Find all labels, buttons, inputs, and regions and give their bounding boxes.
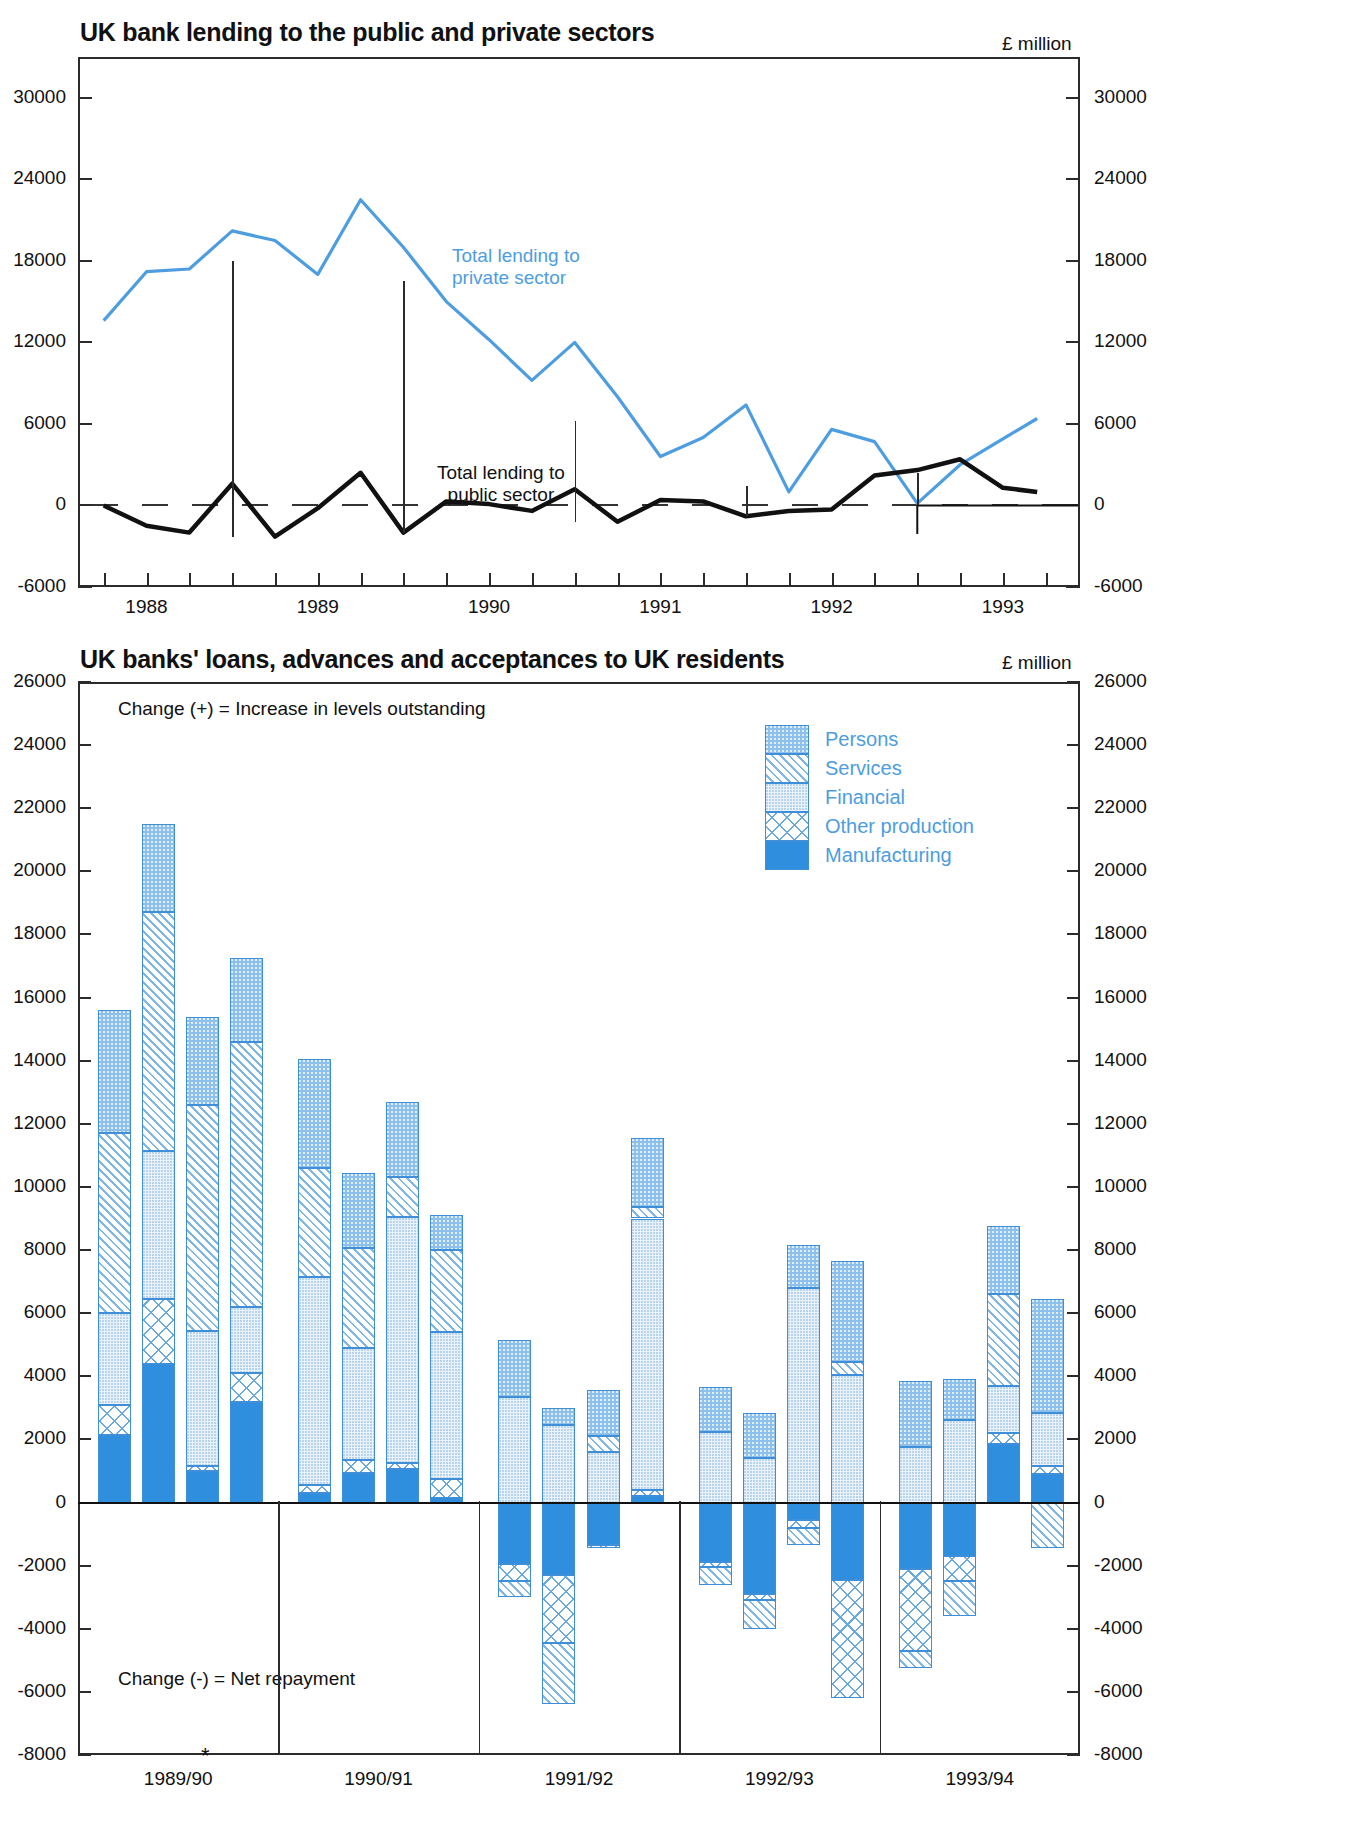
bottom-y-tick-label-left: 4000 — [0, 1364, 66, 1386]
bar-segment-manufacturing — [699, 1503, 732, 1563]
bottom-y-tick-label-right: 0 — [1094, 1491, 1105, 1513]
bar-segment-persons — [298, 1059, 331, 1168]
bottom-axis-tick — [78, 1628, 91, 1630]
bottom-x-tick-label-1990-91: 1990/91 — [278, 1768, 478, 1790]
bottom-axis-tick — [78, 870, 91, 872]
bottom-y-tick-label-left: 20000 — [0, 859, 66, 881]
bar-segment-services — [230, 1042, 263, 1307]
top-x-axis-tick — [361, 573, 363, 587]
bar-segment-financial — [831, 1375, 864, 1503]
top-x-axis-tick — [232, 573, 234, 587]
private-sector-label-line1: Total lending to — [452, 245, 580, 267]
bottom-y-tick-label-left: -2000 — [0, 1554, 66, 1576]
bottom-axis-tick — [78, 1186, 91, 1188]
bar-segment-services — [342, 1248, 375, 1347]
bar-segment-persons — [1031, 1299, 1064, 1413]
bar-segment-manufacturing — [142, 1364, 175, 1503]
bottom-axis-tick — [78, 1754, 91, 1756]
bar-segment-manufacturing — [899, 1503, 932, 1569]
bar-segment-other — [386, 1463, 419, 1469]
bar-segment-services — [743, 1600, 776, 1628]
bottom-y-tick-label-left: 22000 — [0, 796, 66, 818]
bar-segment-services — [631, 1207, 664, 1218]
bar-segment-services — [498, 1581, 531, 1597]
bottom-y-tick-label-left: -6000 — [0, 1680, 66, 1702]
bottom-axis-tick — [1067, 1312, 1080, 1314]
bottom-y-tick-label-right: 6000 — [1094, 1301, 1136, 1323]
top-x-axis-tick — [746, 573, 748, 587]
top-y-tick-label-right: 6000 — [1094, 412, 1136, 434]
bar-segment-manufacturing — [542, 1503, 575, 1576]
bottom-x-tick-label-1991-92: 1991/92 — [479, 1768, 679, 1790]
legend-swatch-other — [765, 812, 809, 841]
top-y-tick-label-right: 30000 — [1094, 86, 1147, 108]
bar-segment-financial — [1031, 1413, 1064, 1467]
bottom-y-tick-label-right: 18000 — [1094, 922, 1147, 944]
bar-segment-services — [1031, 1503, 1064, 1549]
top-period-divider — [746, 486, 748, 516]
legend-swatch-financial — [765, 783, 809, 812]
legend-swatch-persons — [765, 725, 809, 754]
legend-label-other: Other production — [825, 815, 974, 838]
footnote-asterisk: * — [201, 1743, 210, 1769]
bottom-y-tick-label-right: -8000 — [1094, 1743, 1143, 1765]
bar-segment-services — [943, 1581, 976, 1616]
legend-item-financial: Financial — [765, 783, 974, 812]
legend-label-persons: Persons — [825, 728, 898, 751]
bottom-axis-tick — [1067, 744, 1080, 746]
bottom-axis-tick — [1067, 1375, 1080, 1377]
bar-segment-financial — [699, 1432, 732, 1503]
bottom-y-tick-label-left: 2000 — [0, 1427, 66, 1449]
bottom-axis-tick — [1067, 1565, 1080, 1567]
bar-segment-services — [587, 1436, 620, 1452]
top-x-axis-tick — [489, 573, 491, 587]
bar-segment-other — [831, 1580, 864, 1698]
top-x-tick-label-1993: 1993 — [953, 596, 1053, 618]
bar-segment-manufacturing — [498, 1503, 531, 1565]
bottom-axis-tick — [78, 1691, 91, 1693]
top-x-axis-tick — [917, 573, 919, 587]
bar-segment-other — [498, 1564, 531, 1581]
bar-segment-other — [342, 1460, 375, 1473]
bar-segment-financial — [587, 1452, 620, 1502]
bottom-y-tick-label-left: -8000 — [0, 1743, 66, 1765]
bottom-x-tick-label-1993-94: 1993/94 — [880, 1768, 1080, 1790]
bottom-y-tick-label-left: 26000 — [0, 670, 66, 692]
bar-segment-persons — [899, 1381, 932, 1447]
top-period-divider — [403, 281, 405, 532]
bottom-y-tick-label-right: 12000 — [1094, 1112, 1147, 1134]
top-y-tick-label-left: -6000 — [0, 575, 66, 597]
bar-segment-services — [987, 1294, 1020, 1386]
bar-segment-financial — [743, 1458, 776, 1502]
top-x-tick-label-1988: 1988 — [97, 596, 197, 618]
bottom-y-tick-label-right: 16000 — [1094, 986, 1147, 1008]
bottom-axis-tick — [1067, 1123, 1080, 1125]
bottom-x-tick-label-1992-93: 1992/93 — [679, 1768, 879, 1790]
bar-segment-other — [787, 1520, 820, 1528]
bar-segment-financial — [142, 1151, 175, 1299]
bar-segment-persons — [498, 1340, 531, 1397]
bar-segment-persons — [542, 1408, 575, 1425]
legend-swatch-manufacturing — [765, 841, 809, 870]
bar-segment-manufacturing — [743, 1503, 776, 1595]
bar-segment-other — [186, 1466, 219, 1471]
bar-segment-financial — [987, 1386, 1020, 1433]
top-x-axis-tick — [660, 573, 662, 587]
top-y-tick-label-right: 12000 — [1094, 330, 1147, 352]
bar-segment-services — [298, 1168, 331, 1277]
bottom-axis-tick — [78, 1438, 91, 1440]
bar-segment-financial — [186, 1331, 219, 1467]
bar-segment-services — [787, 1528, 820, 1545]
bar-segment-financial — [631, 1219, 664, 1490]
bar-segment-financial — [386, 1217, 419, 1463]
bar-segment-financial — [787, 1288, 820, 1503]
bottom-y-tick-label-left: 8000 — [0, 1238, 66, 1260]
bottom-y-tick-label-left: 0 — [0, 1491, 66, 1513]
series-line-total-lending-to-public-sector — [104, 459, 1037, 536]
bottom-y-tick-label-left: 10000 — [0, 1175, 66, 1197]
bar-segment-persons — [587, 1390, 620, 1436]
bottom-y-tick-label-right: -4000 — [1094, 1617, 1143, 1639]
top-y-tick-label-right: 24000 — [1094, 167, 1147, 189]
bottom-axis-tick — [1067, 997, 1080, 999]
bar-segment-services — [699, 1567, 732, 1584]
